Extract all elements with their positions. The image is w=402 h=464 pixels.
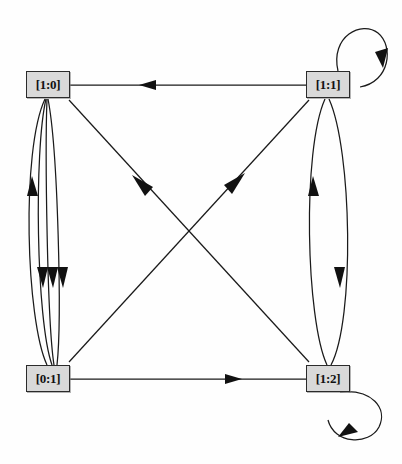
node-1-1[interactable]: [1:1]	[306, 71, 350, 98]
node-1-2[interactable]: [1:2]	[306, 365, 350, 392]
edge-right-bundle-down-n1-to-n3	[329, 99, 348, 365]
node-1-0[interactable]: [1:0]	[26, 71, 70, 98]
node-label-1-2: [1:2]	[316, 372, 341, 385]
edge-top-n1-to-n0	[70, 80, 306, 90]
graph-edges-layer	[0, 0, 402, 464]
node-0-1[interactable]: [0:1]	[26, 365, 70, 392]
edge-right-bundle-up-n3-to-n1	[308, 99, 327, 365]
edge-left-bundle-down-c-n0-to-n2	[48, 99, 68, 365]
edge-self-loop-n3	[328, 392, 381, 440]
node-label-1-1: [1:1]	[316, 78, 341, 91]
node-label-0-1: [0:1]	[36, 372, 61, 385]
edge-bottom-n2-to-n3	[70, 374, 306, 384]
node-label-1-0: [1:0]	[36, 78, 61, 91]
diagram-canvas: [1:0] [1:1] [0:1] [1:2]	[0, 0, 402, 464]
edge-left-bundle-down-b-n0-to-n2	[46, 99, 58, 365]
